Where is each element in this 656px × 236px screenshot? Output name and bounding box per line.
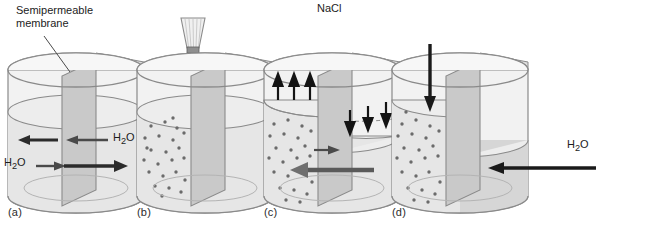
cylinder-rim-highlight — [392, 53, 528, 70]
cylinder-rim-highlight — [264, 53, 400, 70]
cylinder-rim-highlight — [137, 53, 273, 70]
osmosis-figure: Semipermeable membrane H2O H2O (a) — [0, 0, 656, 236]
panel-a-label: (a) — [8, 206, 22, 218]
semipermeable-membrane-label: Semipermeable membrane — [16, 4, 93, 30]
panel-d-drawing — [384, 0, 656, 236]
panel-d-label: (d) — [392, 206, 406, 218]
panel-b-label: (b) — [137, 206, 151, 218]
semipermeable-membrane — [62, 60, 96, 206]
semipermeable-membrane — [446, 60, 480, 206]
panel-d: Gravity Osmotic pressure (d) — [384, 0, 548, 236]
cylinder-rim-highlight — [8, 53, 144, 70]
panel-c-label: (c) — [264, 206, 277, 218]
semipermeable-membrane — [318, 60, 352, 206]
semipermeable-membrane — [191, 60, 225, 206]
h2o-label-bottom: H2O — [4, 156, 26, 173]
nacl-funnel-icon — [181, 18, 205, 53]
